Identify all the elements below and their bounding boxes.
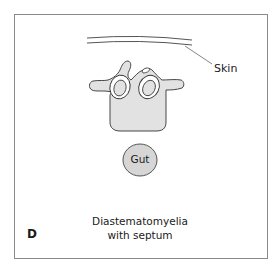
skin-layer: [87, 36, 192, 45]
panel-letter: D: [27, 227, 37, 241]
skin-leader-line: [185, 46, 212, 64]
figure-caption: Diastematomyelia with septum: [80, 214, 200, 242]
vertebra: [89, 61, 183, 131]
caption-line-2: with septum: [80, 228, 200, 242]
gut-label: Gut: [124, 153, 156, 165]
skin-label: Skin: [214, 62, 237, 75]
caption-line-1: Diastematomyelia: [80, 214, 200, 228]
